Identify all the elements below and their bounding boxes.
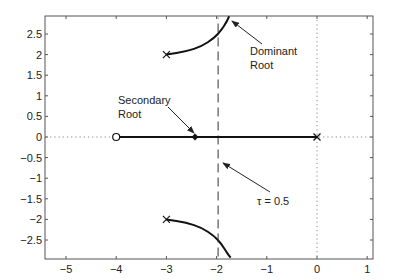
secondary-root-arrow [168, 107, 194, 133]
x-tick-label: −3 [160, 263, 173, 275]
y-tick-label: 1 [36, 90, 42, 102]
x-tick-label: 0 [314, 263, 320, 275]
y-tick-label: −2.5 [20, 234, 42, 246]
y-tick-label: −2 [29, 213, 42, 225]
x-tick-label: 1 [364, 263, 370, 275]
tau-label: τ = 0.5 [257, 195, 289, 207]
secondary-root-label-line1: Secondary [118, 94, 171, 106]
lower-branch-line [166, 219, 230, 257]
y-tick-label: −1 [29, 172, 42, 184]
secondary-root-label-line2: Root [118, 108, 141, 120]
x-tick-label: −5 [60, 263, 73, 275]
x-tick-label: −2 [210, 263, 223, 275]
dominant-root-label-line2: Root [250, 59, 273, 71]
x-tick-label: −4 [110, 263, 123, 275]
root-locus-chart: −5−4−3−2−1012.521.510.50−0.5−1−1.5−2−2.5… [0, 0, 393, 280]
upper-branch-line [166, 16, 229, 54]
y-tick-label: −0.5 [20, 152, 42, 164]
secondary-root-diamond-icon [192, 134, 199, 141]
zero-circle-marker-icon [113, 134, 120, 141]
annotations: Dominant Root Secondary Root τ = 0.5 [118, 21, 297, 207]
axis-ticks: −5−4−3−2−1012.521.510.50−0.5−1−1.5−2−2.5 [20, 16, 373, 275]
y-tick-label: 0 [36, 131, 42, 143]
y-tick-label: 1.5 [27, 69, 42, 81]
tau-arrow [223, 163, 270, 192]
x-tick-label: −1 [261, 263, 274, 275]
dominant-root-arrow [232, 21, 262, 44]
y-tick-label: 0.5 [27, 110, 42, 122]
dominant-root-label-line1: Dominant [250, 45, 297, 57]
data-series [46, 16, 375, 257]
y-tick-label: 2.5 [27, 28, 42, 40]
y-tick-label: −1.5 [20, 193, 42, 205]
y-tick-label: 2 [36, 49, 42, 61]
